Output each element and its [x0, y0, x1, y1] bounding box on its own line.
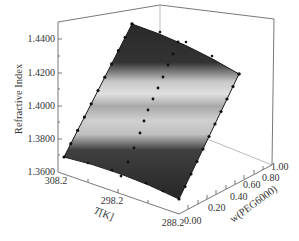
t-tick-label: 298.2 — [101, 195, 124, 206]
z-axis-title: Refractive Index — [13, 63, 24, 134]
frame-top-left-edge — [58, 5, 160, 22]
w-tick-label: 0.40 — [230, 191, 248, 202]
z-tick-label: 1.4000 — [28, 100, 56, 111]
surface-patch — [64, 24, 239, 199]
w-tick-label: 0.60 — [243, 179, 261, 190]
t-tick-label: 288.2 — [162, 217, 185, 228]
z-tick-label: 1.4200 — [28, 67, 56, 78]
surface — [64, 24, 239, 199]
t-axis-title: T[K] — [92, 205, 115, 223]
w-tick-label: 0.80 — [262, 172, 280, 183]
z-tick-label: 1.4400 — [28, 33, 56, 44]
frame-right-vertical-edge — [272, 19, 274, 165]
t-tick-label: 308.2 — [45, 175, 68, 186]
z-tick-label: 1.3800 — [28, 133, 56, 144]
w-tick-label: 1.00 — [271, 161, 289, 172]
z-axis-ticks — [58, 39, 62, 155]
w-tick-label: 0.00 — [184, 215, 202, 226]
surface-chart: 1.4400 1.4200 1.4000 1.3800 1.3600 Refra… — [0, 0, 299, 241]
z-axis-tick-labels: 1.4400 1.4200 1.4000 1.3800 1.3600 — [28, 33, 56, 177]
frame-top-right-edge — [160, 5, 274, 19]
w-tick-label: 0.20 — [208, 202, 226, 213]
